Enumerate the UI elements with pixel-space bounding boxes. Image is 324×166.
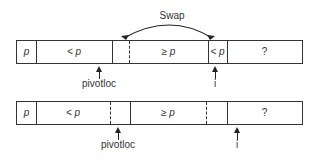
array-row-after: p < p ≥ p ? <box>16 101 303 125</box>
cell-swapped <box>110 102 130 124</box>
cell-greater-equal: ≥ p <box>130 102 206 124</box>
pivotloc-label: pivotloc <box>82 78 116 89</box>
array-row-before: p < p ≥ p < p ? <box>16 40 303 64</box>
i-label: i <box>214 78 216 89</box>
cell-unknown: ? <box>227 102 302 124</box>
i-label: i <box>236 139 238 150</box>
cell-less-than: < p <box>36 102 110 124</box>
cell-unknown: ? <box>227 41 302 63</box>
cell-pivot: p <box>17 102 36 124</box>
pivotloc-label: pivotloc <box>101 139 135 150</box>
cell-greater-equal: ≥ p <box>129 41 208 63</box>
cell-swapped-ge <box>206 102 227 124</box>
swap-label: Swap <box>159 10 184 21</box>
cell-empty <box>112 41 129 63</box>
cell-less-than-new: < p <box>208 41 227 63</box>
swap-arc <box>0 0 324 166</box>
cell-less-than: < p <box>36 41 112 63</box>
cell-pivot: p <box>17 41 36 63</box>
